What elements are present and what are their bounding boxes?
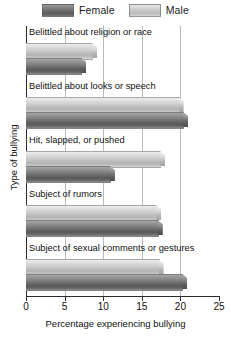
legend-swatch-female-icon <box>42 4 74 17</box>
legend-swatch-male-icon <box>129 4 161 17</box>
bar-cap-icon <box>92 43 97 58</box>
y-axis-title: Type of bullying <box>8 98 19 218</box>
bar-male-2 <box>26 97 180 112</box>
bar-cap-icon <box>158 220 163 235</box>
bar-cap-icon <box>159 259 164 274</box>
xtick-label-10: 10 <box>88 301 118 312</box>
category-label-3: Hit, slapped, or pushed <box>29 134 125 147</box>
bar-fill <box>26 274 183 291</box>
bar-fill <box>26 166 111 183</box>
xtick-label-5: 5 <box>50 301 80 312</box>
bar-cap-icon <box>156 205 161 220</box>
bar-female-3 <box>26 166 111 181</box>
x-axis-title: Percentage experiencing bullying <box>0 318 231 329</box>
plot-area: Belittled about religion or race Belittl… <box>26 26 219 296</box>
bar-chart: Female Male Type of bullying Belittled a… <box>0 0 231 337</box>
bar-group-4: Subject of rumors <box>26 188 219 242</box>
bar-cap-icon <box>110 166 115 181</box>
bar-fill <box>26 220 159 237</box>
bar-cap-icon <box>160 151 165 166</box>
bar-female-2 <box>26 112 184 127</box>
category-label-5: Subject of sexual comments or gestures <box>29 242 194 255</box>
bar-group-2: Belittled about looks or speech <box>26 80 219 134</box>
category-label-1: Belittled about religion or race <box>29 26 152 39</box>
xtick-label-0: 0 <box>11 301 41 312</box>
category-label-2: Belittled about looks or speech <box>29 80 156 93</box>
legend-item-male: Male <box>129 4 189 17</box>
bar-cap-icon <box>81 58 86 73</box>
bar-group-1: Belittled about religion or race <box>26 26 219 80</box>
bar-cap-icon <box>183 112 188 127</box>
chart-legend: Female Male <box>0 2 231 19</box>
bar-fill <box>26 112 184 129</box>
x-axis-line <box>26 296 220 297</box>
bar-cap-icon <box>179 97 184 112</box>
bar-male-3 <box>26 151 161 166</box>
bar-female-4 <box>26 220 159 235</box>
bar-group-3: Hit, slapped, or pushed <box>26 134 219 188</box>
bar-female-1 <box>26 58 82 73</box>
xtick-label-25: 25 <box>204 301 231 312</box>
bar-fill <box>26 58 82 75</box>
legend-item-female: Female <box>42 4 115 17</box>
bar-female-5 <box>26 274 183 289</box>
bar-cap-icon <box>182 274 187 289</box>
bar-group-5: Subject of sexual comments or gestures <box>26 242 219 296</box>
category-label-4: Subject of rumors <box>29 188 102 201</box>
legend-label-female: Female <box>79 5 115 16</box>
bar-male-5 <box>26 259 160 274</box>
bar-male-1 <box>26 43 93 58</box>
xtick-label-15: 15 <box>127 301 157 312</box>
bar-male-4 <box>26 205 157 220</box>
xtick-label-20: 20 <box>165 301 195 312</box>
legend-label-male: Male <box>166 5 189 16</box>
